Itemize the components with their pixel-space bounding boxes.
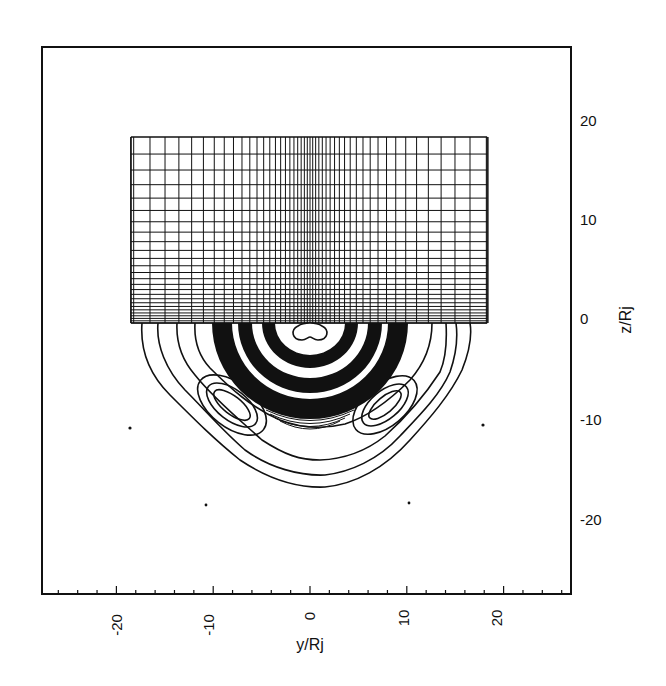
x-axis-ticks xyxy=(58,586,561,594)
dense-contour-bands xyxy=(212,323,408,429)
y-tick-label: 20 xyxy=(580,112,597,129)
x-tick-label: -20 xyxy=(108,614,125,636)
x-tick-label: 20 xyxy=(488,610,505,627)
x-tick-label: -10 xyxy=(200,614,217,636)
markers xyxy=(128,423,484,506)
computational-mesh xyxy=(131,137,488,323)
y-tick-label: -10 xyxy=(580,411,602,428)
x-tick-label: 10 xyxy=(395,610,412,627)
x-tick-label: 0 xyxy=(301,612,318,620)
y-tick-label: 10 xyxy=(580,211,597,228)
y-tick-label: -20 xyxy=(580,511,602,528)
y-tick-label: 0 xyxy=(580,310,588,327)
y-tick-labels: 20 10 0 -10 -20 xyxy=(580,112,602,528)
x-tick-labels: -20 -10 0 10 20 xyxy=(108,610,505,636)
y-axis-title: z/Rj xyxy=(617,306,634,334)
contour-figure: -20 -10 0 10 20 y/Rj 20 10 0 -10 -20 z/R… xyxy=(0,0,666,686)
x-axis-title: y/Rj xyxy=(296,636,324,653)
